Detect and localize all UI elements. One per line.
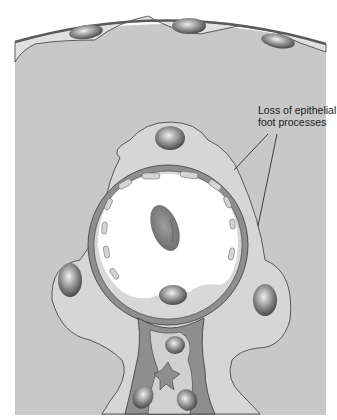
glomerulus-diagram xyxy=(0,0,337,420)
mesangial-nucleus xyxy=(165,336,185,354)
podocyte-nucleus xyxy=(58,263,82,297)
endothelial-nucleus xyxy=(159,285,187,305)
podocyte-nucleus xyxy=(253,284,277,316)
podocyte-nucleus xyxy=(155,126,185,150)
annotation-line-2: foot processes xyxy=(258,116,336,128)
annotation-line-1: Loss of epithelial xyxy=(258,104,336,116)
annotation-foot-process-loss: Loss of epithelial foot processes xyxy=(258,104,336,128)
parietal-nucleus xyxy=(172,18,206,34)
capillary-loop xyxy=(88,165,248,325)
